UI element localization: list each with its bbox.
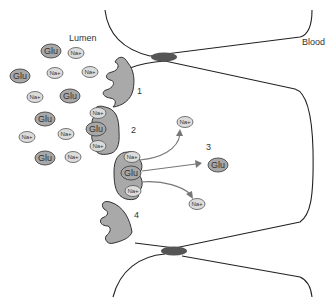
sodium-label: Na+: [70, 50, 82, 56]
sodium-label: Na+: [84, 69, 96, 75]
sodium-label: Na+: [127, 188, 139, 194]
sodium-ion-lumen-9: Na+: [58, 129, 74, 140]
glucose-molecule-t3-1: Glu: [121, 166, 141, 180]
glucose-molecule-lumen-7: Glu: [35, 112, 55, 126]
sodium-label: Na+: [92, 143, 104, 149]
step-2-label: 2: [131, 125, 136, 135]
sodium-ion-t2-2: Na+: [90, 141, 106, 152]
step-4-label: 4: [134, 210, 139, 220]
glucose-label: Glu: [13, 71, 27, 81]
arrowhead-sodium-down: [186, 191, 193, 199]
sodium-ion-lumen-8: Na+: [19, 132, 35, 143]
transporter-1: [103, 57, 134, 107]
arrowhead-sodium-up: [176, 129, 183, 136]
arrow-glucose: [142, 164, 196, 171]
arrow-sodium-down: [141, 182, 190, 194]
glucose-label: Glu: [211, 160, 225, 170]
sodium-ion-lumen-1: Na+: [68, 48, 84, 59]
sodium-ion-t2-0: Na+: [90, 108, 106, 119]
glucose-label: Glu: [38, 114, 52, 124]
glucose-label: Glu: [63, 91, 77, 101]
step-3-label: 3: [206, 142, 211, 152]
sodium-ion-released-0: Na+: [177, 117, 193, 128]
glucose-sodium-cotransport-diagram: Lumen Blood 1 2 3 4 GluNa+GluNa+Na+Na+Gl…: [0, 0, 330, 299]
glucose-label: Glu: [124, 168, 138, 178]
glucose-molecule-t2-1: Glu: [86, 122, 106, 136]
upper-tight-junction: [151, 53, 177, 62]
sodium-label: Na+: [191, 201, 203, 207]
sodium-label: Na+: [179, 119, 191, 125]
sodium-label: Na+: [60, 131, 72, 137]
arrow-sodium-up: [140, 134, 180, 160]
lower-tight-junction: [161, 247, 187, 256]
sodium-label: Na+: [126, 154, 138, 160]
sodium-label: Na+: [67, 154, 79, 160]
glucose-molecule-lumen-0: Glu: [41, 44, 61, 58]
sodium-ion-released-2: Na+: [189, 199, 205, 210]
glucose-molecule-released-1: Glu: [208, 158, 228, 172]
sodium-label: Na+: [21, 134, 33, 140]
lower-cell-membrane: [113, 254, 312, 297]
glucose-label: Glu: [44, 46, 58, 56]
sodium-label: Na+: [29, 94, 41, 100]
sodium-ion-t3-0: Na+: [124, 152, 140, 163]
upper-cell-membrane: [105, 10, 312, 56]
arrowhead-glucose: [195, 160, 202, 168]
sodium-ion-lumen-3: Na+: [47, 68, 63, 79]
glucose-label: Glu: [38, 153, 52, 163]
transporter-4: [100, 201, 132, 243]
glucose-molecule-lumen-2: Glu: [10, 69, 30, 83]
sodium-ion-lumen-11: Na+: [65, 152, 81, 163]
blood-label: Blood: [302, 37, 325, 47]
step-1-label: 1: [137, 86, 142, 96]
sodium-label: Na+: [92, 110, 104, 116]
glucose-label: Glu: [89, 124, 103, 134]
sodium-ion-lumen-4: Na+: [82, 67, 98, 78]
sodium-ion-lumen-5: Na+: [27, 92, 43, 103]
sodium-label: Na+: [49, 70, 61, 76]
lumen-label: Lumen: [69, 33, 97, 43]
release-arrows: [140, 129, 202, 199]
sodium-ion-t3-2: Na+: [125, 186, 141, 197]
glucose-molecule-lumen-10: Glu: [35, 151, 55, 165]
main-cell-membrane: [130, 61, 313, 248]
glucose-molecule-lumen-6: Glu: [60, 89, 80, 103]
